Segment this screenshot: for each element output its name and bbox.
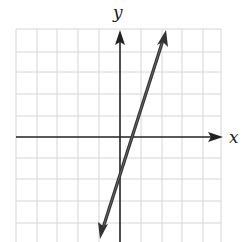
coordinate-graph: y x xyxy=(0,0,251,242)
y-axis-label: y xyxy=(112,2,123,22)
plotted-line xyxy=(98,30,168,239)
grid xyxy=(16,29,221,242)
x-axis-label: x xyxy=(229,127,239,147)
y-axis xyxy=(115,30,125,242)
